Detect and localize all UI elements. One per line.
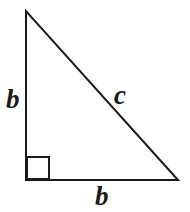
label-hypotenuse: c [114,82,126,109]
triangle-outline [26,11,178,180]
label-leg-vertical: b [6,86,20,113]
label-leg-horizontal: b [95,183,109,210]
right-angle-marker-icon [27,157,49,179]
right-triangle-figure: b c b [0,0,190,212]
